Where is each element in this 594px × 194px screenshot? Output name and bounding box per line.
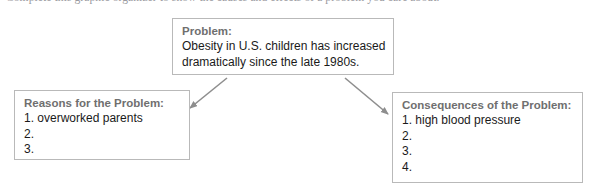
consequences-item-1[interactable]: 1. high blood pressure — [402, 113, 574, 129]
reasons-box: Reasons for the Problem: 1. overworked p… — [14, 90, 190, 160]
reasons-item-3[interactable]: 3. — [24, 142, 181, 158]
problem-box-line-2: dramatically since the late 1980s. — [182, 55, 385, 71]
clipped-header-text: Complete this graphic organizer to show … — [6, 0, 566, 3]
consequences-item-3[interactable]: 3. — [402, 144, 574, 160]
arrow-problem-to-consequences — [345, 78, 388, 114]
reasons-item-1[interactable]: 1. overworked parents — [24, 111, 181, 127]
problem-box-line-1: Obesity in U.S. children has increased — [182, 39, 385, 55]
consequences-item-2[interactable]: 2. — [402, 129, 574, 145]
consequences-box: Consequences of the Problem: 1. high blo… — [392, 92, 583, 183]
consequences-box-title: Consequences of the Problem: — [402, 98, 574, 113]
problem-box-title: Problem: — [182, 24, 385, 39]
arrow-problem-to-reasons — [190, 78, 227, 108]
consequences-item-4[interactable]: 4. — [402, 160, 574, 176]
problem-box: Problem: Obesity in U.S. children has in… — [172, 18, 394, 75]
reasons-item-2[interactable]: 2. — [24, 127, 181, 143]
graphic-organizer-page: Complete this graphic organizer to show … — [0, 0, 594, 194]
reasons-box-title: Reasons for the Problem: — [24, 96, 181, 111]
